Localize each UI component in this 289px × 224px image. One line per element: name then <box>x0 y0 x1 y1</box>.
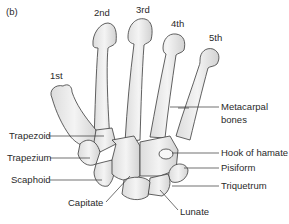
metacarpal-5 <box>176 49 219 140</box>
hook-of-hamate-bone <box>159 149 173 159</box>
metacarpal-4 <box>150 34 185 138</box>
label-5th: 5th <box>209 33 222 43</box>
label-metacarpal-bones-1: Metacarpal <box>221 102 268 112</box>
label-metacarpal-bones-2: bones <box>221 115 247 125</box>
label-lunate: Lunate <box>180 207 209 217</box>
label-1st: 1st <box>50 71 63 81</box>
label-capitate: Capitate <box>68 198 103 208</box>
label-2nd: 2nd <box>94 8 110 18</box>
label-pisiform: Pisiform <box>221 163 255 173</box>
label-4th: 4th <box>171 19 184 29</box>
scaphoid-bone <box>94 160 114 186</box>
label-triquetrum: Triquetrum <box>221 181 267 191</box>
label-trapezoid: Trapezoid <box>9 131 51 141</box>
label-scaphoid: Scaphoid <box>11 175 51 185</box>
label-trapezium: Trapezium <box>7 153 52 163</box>
label-3rd: 3rd <box>136 5 150 15</box>
metacarpal-1 <box>51 85 98 147</box>
triquetrum-bone <box>148 174 170 196</box>
leader-lunate <box>160 190 178 210</box>
metacarpal-3 <box>125 19 152 142</box>
capitate-bone <box>112 136 140 180</box>
label-hook-of-hamate: Hook of hamate <box>221 148 288 158</box>
metacarpal-2 <box>93 23 116 142</box>
